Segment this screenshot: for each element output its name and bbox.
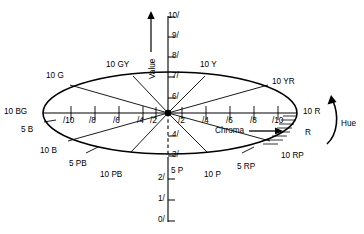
- chroma-tick-label-left-8: /8: [89, 117, 96, 125]
- munsell-diagram: Value 10/ 9/ 8/ 7/ 6/ 4/ 3/ 2/ 1/ 0/ /10…: [0, 0, 364, 234]
- spoke-10-gy: [133, 76, 168, 113]
- tick-5-rp: [242, 147, 254, 153]
- value-tick-label-10: 10/: [168, 12, 179, 20]
- value-arrow-head: [147, 11, 154, 19]
- value-tick-label-7: 7/: [172, 72, 179, 80]
- hue-arrow-arc: [327, 101, 337, 144]
- chroma-tick-label-right-10: /10: [272, 117, 283, 125]
- value-tick-label-3: 3/: [172, 151, 179, 159]
- chroma-axis-label: Chroma: [215, 127, 244, 135]
- value-axis-label: Value: [148, 59, 157, 79]
- hue-label-10-y: 10 Y: [200, 61, 217, 69]
- chroma-tick-label-right-6: /6: [226, 117, 233, 125]
- chroma-axis-group: [43, 106, 297, 135]
- chroma-tick-label-left-4: /4: [137, 117, 144, 125]
- hue-label-10-g: 10 G: [46, 72, 64, 80]
- value-tick-label-1: 1/: [158, 195, 165, 203]
- hue-label-10-b: 10 B: [40, 147, 57, 155]
- hue-label-5-pb: 5 PB: [69, 160, 87, 168]
- hue-label-5-rp: 5 RP: [237, 163, 255, 171]
- hue-label-r: R: [305, 129, 311, 137]
- hue-label-10-yr: 10 YR: [272, 78, 295, 86]
- hue-label-5-b: 5 B: [21, 126, 33, 134]
- hue-label-10-pb: 10 PB: [100, 171, 122, 179]
- value-tick-label-2: 2/: [158, 174, 165, 182]
- chroma-tick-label-right-2: /2: [178, 117, 185, 125]
- hue-label-10-bg: 10 BG: [4, 108, 27, 116]
- value-tick-label-4: 4/: [172, 131, 179, 139]
- tick-5-pb: [86, 147, 98, 153]
- chroma-tick-label-right-4: /4: [202, 117, 209, 125]
- chroma-tick-label-left-2: /2: [150, 117, 157, 125]
- value-tick-label-8: 8/: [172, 52, 179, 60]
- hue-label-5-p: 5 P: [171, 167, 183, 175]
- hue-label-10-p: 10 P: [204, 171, 221, 179]
- value-tick-label-9: 9/: [172, 32, 179, 40]
- hue-rotation-arrow: [327, 95, 337, 144]
- chroma-tick-label-left-6: /6: [113, 117, 120, 125]
- value-tick-label-0: 0/: [158, 216, 165, 224]
- value-tick-label-6: 6/: [172, 93, 179, 101]
- hue-label-10-r: 10 R: [303, 108, 320, 116]
- spoke-10-yr: [168, 85, 268, 113]
- hue-arrow-head: [328, 95, 337, 105]
- hue-label-10-rp: 10 RP: [281, 152, 304, 160]
- hue-axis-label: Hue: [341, 120, 356, 128]
- neutral-axis-center-point: [165, 110, 171, 116]
- chroma-tick-label-right-8: /8: [250, 117, 257, 125]
- chroma-tick-label-left-10: /10: [63, 117, 74, 125]
- hue-label-10-gy: 10 GY: [106, 61, 129, 69]
